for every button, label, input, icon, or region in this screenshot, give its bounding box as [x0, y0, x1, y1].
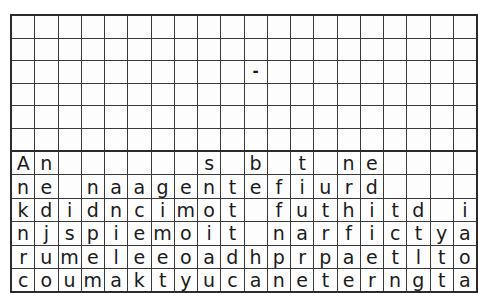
letter-cell[interactable]: f [267, 198, 290, 221]
block-cell-empty[interactable] [105, 61, 128, 84]
letter-cell[interactable]: o [174, 245, 197, 268]
letter-cell[interactable]: i [198, 222, 221, 245]
letter-cell[interactable]: a [337, 245, 360, 268]
block-cell-filled[interactable] [430, 106, 453, 129]
block-cell-empty[interactable] [384, 61, 407, 84]
block-cell-empty[interactable] [105, 15, 128, 38]
block-cell-empty[interactable] [174, 106, 197, 129]
letter-cell-empty[interactable] [151, 151, 174, 175]
letter-cell[interactable]: a [128, 175, 151, 198]
block-cell-empty[interactable] [453, 61, 477, 84]
letter-cell[interactable]: a [291, 222, 314, 245]
letter-cell[interactable]: d [360, 175, 383, 198]
block-cell-empty[interactable] [174, 38, 197, 61]
letter-cell[interactable]: o [453, 245, 477, 268]
block-cell-empty[interactable] [151, 106, 174, 129]
block-cell-empty[interactable] [35, 38, 58, 61]
block-cell-empty[interactable] [291, 128, 314, 151]
block-cell-empty[interactable] [384, 38, 407, 61]
block-cell-filled[interactable] [174, 128, 197, 151]
block-cell-empty[interactable] [105, 128, 128, 151]
letter-cell[interactable]: t [221, 198, 244, 221]
block-cell-filled[interactable] [430, 61, 453, 84]
letter-cell[interactable]: r [360, 268, 383, 292]
block-cell-empty[interactable] [81, 128, 104, 151]
letter-cell-empty[interactable] [267, 151, 290, 175]
block-cell-filled[interactable] [58, 128, 81, 151]
letter-cell[interactable]: n [81, 175, 104, 198]
block-cell-empty[interactable] [314, 128, 337, 151]
block-cell-empty[interactable] [128, 128, 151, 151]
letter-cell[interactable]: i [151, 198, 174, 221]
block-cell-empty[interactable] [453, 83, 477, 106]
letter-cell[interactable]: a [105, 175, 128, 198]
letter-cell-empty[interactable] [430, 198, 453, 221]
letter-cell[interactable]: r [291, 245, 314, 268]
letter-cell[interactable]: d [81, 198, 104, 221]
block-cell-empty[interactable] [11, 106, 35, 129]
letter-cell-empty[interactable] [81, 151, 104, 175]
block-cell-empty[interactable] [128, 38, 151, 61]
letter-cell[interactable]: e [244, 175, 267, 198]
letter-cell[interactable]: e [151, 245, 174, 268]
letter-cell[interactable]: t [151, 268, 174, 292]
letter-cell[interactable]: p [267, 245, 290, 268]
letter-cell[interactable]: f [267, 175, 290, 198]
letter-cell[interactable]: n [337, 151, 360, 175]
block-cell-empty[interactable] [81, 15, 104, 38]
letter-cell[interactable]: c [384, 222, 407, 245]
block-cell-filled[interactable] [407, 38, 430, 61]
letter-cell[interactable]: u [58, 268, 81, 292]
block-cell-empty[interactable] [337, 61, 360, 84]
block-cell-empty[interactable] [244, 106, 267, 129]
block-cell-empty[interactable] [151, 83, 174, 106]
letter-cell[interactable]: m [58, 245, 81, 268]
letter-cell[interactable]: m [81, 268, 104, 292]
block-cell-empty[interactable] [35, 15, 58, 38]
block-cell-empty[interactable] [11, 61, 35, 84]
block-cell-empty[interactable] [221, 128, 244, 151]
block-cell-empty[interactable] [314, 106, 337, 129]
letter-cell-empty[interactable] [407, 175, 430, 198]
block-cell-empty[interactable] [81, 38, 104, 61]
block-cell-empty[interactable] [244, 15, 267, 38]
letter-cell-empty[interactable] [453, 151, 477, 175]
block-cell-filled[interactable] [244, 83, 267, 106]
block-cell-empty[interactable] [35, 106, 58, 129]
letter-cell-empty[interactable] [244, 198, 267, 221]
block-cell-empty[interactable] [81, 106, 104, 129]
letter-cell[interactable]: t [314, 198, 337, 221]
block-cell-filled[interactable] [81, 61, 104, 84]
letter-cell[interactable]: e [81, 245, 104, 268]
block-cell-empty[interactable] [337, 83, 360, 106]
block-cell-empty[interactable] [11, 83, 35, 106]
letter-cell[interactable]: g [151, 175, 174, 198]
block-cell-empty[interactable] [35, 83, 58, 106]
letter-cell[interactable]: t [291, 151, 314, 175]
block-cell-empty[interactable] [105, 106, 128, 129]
letter-cell[interactable]: i [291, 175, 314, 198]
letter-cell[interactable]: n [11, 222, 35, 245]
letter-cell[interactable]: c [128, 198, 151, 221]
block-cell-empty[interactable] [430, 83, 453, 106]
block-cell-empty[interactable] [407, 61, 430, 84]
block-cell-empty[interactable] [267, 38, 290, 61]
letter-cell-empty[interactable] [430, 175, 453, 198]
block-cell-empty[interactable] [221, 83, 244, 106]
block-cell-empty[interactable] [360, 106, 383, 129]
block-cell-empty[interactable] [360, 15, 383, 38]
block-cell-empty[interactable] [314, 38, 337, 61]
block-cell-empty[interactable] [337, 128, 360, 151]
block-cell-empty[interactable] [174, 83, 197, 106]
letter-cell[interactable]: m [151, 222, 174, 245]
block-cell-empty[interactable] [407, 128, 430, 151]
letter-cell-empty[interactable] [453, 175, 477, 198]
block-cell-filled[interactable] [198, 15, 221, 38]
block-cell-filled[interactable] [151, 38, 174, 61]
letter-cell[interactable]: u [291, 198, 314, 221]
letter-cell-empty[interactable] [430, 151, 453, 175]
letter-cell[interactable]: t [430, 245, 453, 268]
block-cell-empty[interactable] [337, 106, 360, 129]
letter-cell[interactable]: t [407, 222, 430, 245]
letter-cell[interactable]: e [291, 268, 314, 292]
